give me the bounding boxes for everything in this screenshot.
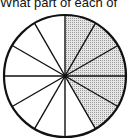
fraction-circle <box>0 0 134 140</box>
center-point <box>63 74 67 78</box>
shaded-region <box>65 15 126 129</box>
